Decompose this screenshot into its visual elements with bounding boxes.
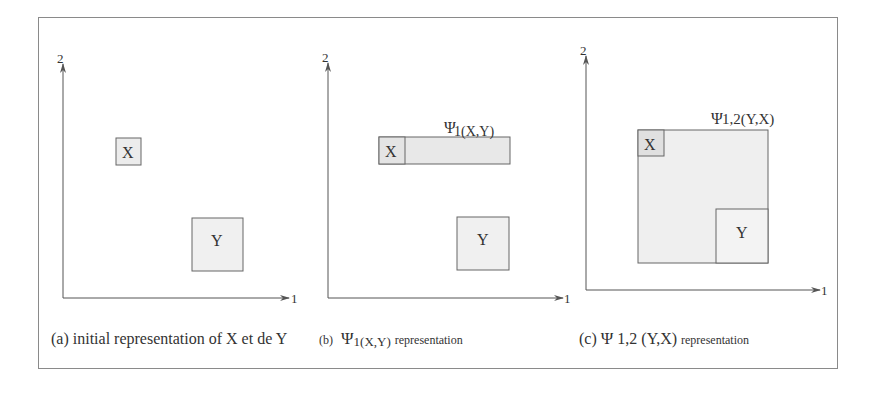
- panel-a: 2 1 X Y: [57, 51, 298, 306]
- axis-1-label: 1: [291, 291, 298, 306]
- axis-2-label: 2: [322, 50, 329, 65]
- axis-1-label: 1: [564, 291, 571, 306]
- set-x-label: X: [644, 136, 656, 153]
- caption-a: (a) initial representation of X et de Y: [51, 330, 287, 348]
- set-y-label: Y: [477, 231, 489, 248]
- axis-1-label: 1: [821, 283, 828, 298]
- caption-c-suffix: representation: [681, 333, 749, 347]
- caption-c: (c) Ψ 1,2 (Y,X) representation: [579, 329, 749, 349]
- psi-subscript: 1,2(Y,X): [722, 111, 774, 128]
- caption-c-mid: 1,2 (Y,X): [617, 330, 677, 347]
- set-y-label: Y: [736, 224, 748, 241]
- set-x-label: X: [122, 144, 134, 161]
- psi-icon: Ψ: [601, 329, 614, 348]
- panel-b: 2 1 X Ψ 1(X,Y) Y: [322, 50, 571, 306]
- caption-c-prefix: (c): [579, 330, 597, 347]
- set-y-label: Y: [211, 232, 223, 249]
- axis-2-label: 2: [57, 51, 64, 66]
- psi-subscript: 1(X,Y): [454, 124, 494, 140]
- psi-icon: Ψ: [341, 329, 354, 348]
- caption-b-suffix: representation: [395, 333, 463, 347]
- axis-2-label: 2: [580, 43, 587, 58]
- caption-b-prefix: (b): [319, 333, 333, 347]
- caption-b-subscript: 1(X,Y): [354, 334, 391, 349]
- set-x-label: X: [385, 143, 397, 160]
- panel-c: 2 1 X Y Ψ 1,2(Y,X): [580, 43, 828, 298]
- caption-b: (b) Ψ1(X,Y) representation: [319, 329, 463, 349]
